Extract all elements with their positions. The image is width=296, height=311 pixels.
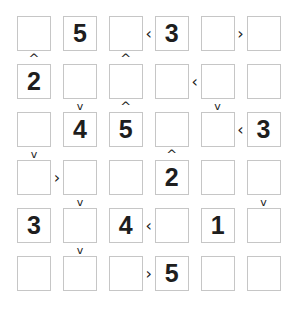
empty-cell[interactable] [201, 256, 235, 291]
given-cell[interactable]: 5 [155, 256, 189, 291]
empty-cell[interactable] [155, 208, 189, 243]
given-cell[interactable]: 3 [247, 112, 281, 147]
greater-than-icon: › [235, 28, 247, 40]
caret-down-icon: v [74, 101, 86, 113]
empty-cell[interactable] [17, 112, 51, 147]
empty-cell[interactable] [63, 256, 97, 291]
empty-cell[interactable] [63, 208, 97, 243]
less-than-icon: ‹ [143, 220, 155, 232]
given-cell[interactable]: 5 [109, 112, 143, 147]
empty-cell[interactable] [155, 64, 189, 99]
empty-cell[interactable] [247, 16, 281, 51]
empty-cell[interactable] [63, 64, 97, 99]
empty-cell[interactable] [109, 256, 143, 291]
given-cell[interactable]: 4 [109, 208, 143, 243]
empty-cell[interactable] [109, 160, 143, 195]
empty-cell[interactable] [201, 160, 235, 195]
caret-up-icon: ^ [28, 53, 40, 65]
greater-than-icon: › [143, 268, 155, 280]
empty-cell[interactable] [247, 256, 281, 291]
empty-cell[interactable] [201, 16, 235, 51]
given-cell[interactable]: 2 [17, 64, 51, 99]
greater-than-icon: › [51, 172, 63, 184]
caret-down-icon: v [74, 245, 86, 257]
less-than-icon: ‹ [235, 124, 247, 136]
less-than-icon: ‹ [143, 28, 155, 40]
empty-cell[interactable] [63, 160, 97, 195]
caret-down-icon: v [212, 101, 224, 113]
caret-down-icon: v [28, 149, 40, 161]
caret-up-icon: ^ [120, 101, 132, 113]
less-than-icon: ‹ [189, 76, 201, 88]
given-cell[interactable]: 1 [201, 208, 235, 243]
futoshiki-board: 53245323415‹›‹‹›‹›^^v^vv^vvv [0, 0, 296, 311]
given-cell[interactable]: 5 [63, 16, 97, 51]
empty-cell[interactable] [201, 64, 235, 99]
given-cell[interactable]: 2 [155, 160, 189, 195]
given-cell[interactable]: 3 [17, 208, 51, 243]
caret-up-icon: ^ [120, 53, 132, 65]
empty-cell[interactable] [247, 160, 281, 195]
empty-cell[interactable] [17, 160, 51, 195]
empty-cell[interactable] [17, 16, 51, 51]
empty-cell[interactable] [201, 112, 235, 147]
caret-down-icon: v [258, 197, 270, 209]
caret-down-icon: v [74, 197, 86, 209]
caret-up-icon: ^ [166, 149, 178, 161]
empty-cell[interactable] [109, 16, 143, 51]
given-cell[interactable]: 4 [63, 112, 97, 147]
empty-cell[interactable] [109, 64, 143, 99]
empty-cell[interactable] [247, 208, 281, 243]
empty-cell[interactable] [17, 256, 51, 291]
given-cell[interactable]: 3 [155, 16, 189, 51]
empty-cell[interactable] [247, 64, 281, 99]
empty-cell[interactable] [155, 112, 189, 147]
